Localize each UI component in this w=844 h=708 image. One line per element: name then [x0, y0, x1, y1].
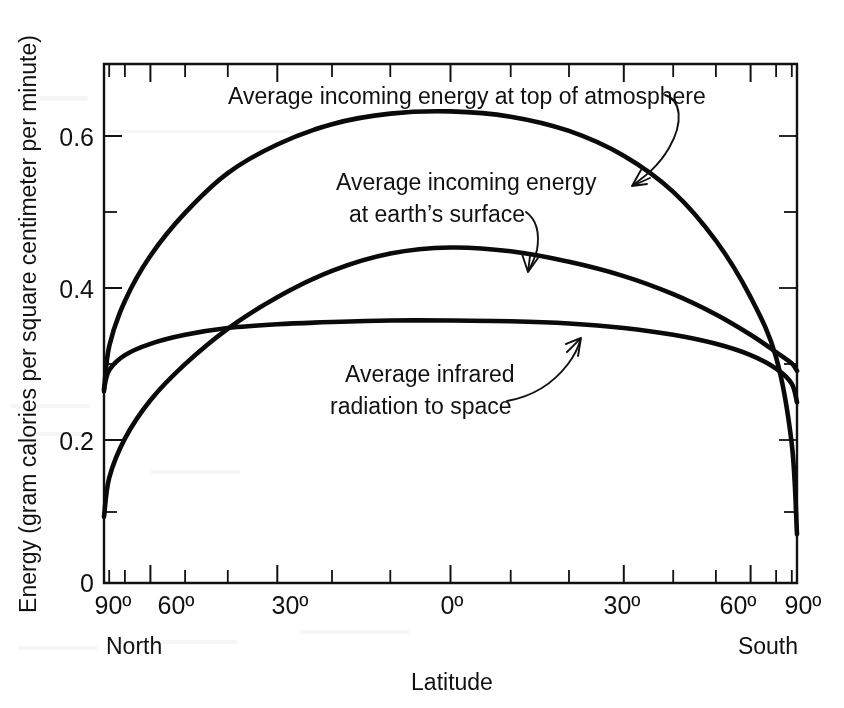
annotation-top-of-atmosphere-line1: Average incoming energy at top of atmosp… [228, 83, 706, 109]
ytick-label-0-6: 0.6 [59, 123, 94, 151]
xtick-label-60-south: 60º [720, 591, 757, 619]
xtick-label-60-north: 60º [158, 591, 195, 619]
ytick-label-0-2: 0.2 [59, 427, 94, 455]
annotation-earths-surface-line1: Average incoming energy [336, 169, 597, 195]
energy-latitude-chart: 0 0.2 0.4 0.6 Energy (gram calories per … [0, 0, 844, 708]
xtick-label-30-north: 30º [272, 591, 309, 619]
annotation-infrared-line1: Average infrared [345, 361, 515, 387]
ytick-label-0-4: 0.4 [59, 275, 94, 303]
figure-container: 0 0.2 0.4 0.6 Energy (gram calories per … [0, 0, 844, 708]
hemisphere-label-north: North [106, 633, 162, 659]
x-axis-title: Latitude [411, 669, 493, 695]
hemisphere-label-south: South [738, 633, 798, 659]
annotation-earths-surface-line2: at earth’s surface [349, 201, 525, 227]
xtick-label-30-south: 30º [604, 591, 641, 619]
xtick-label-0: 0º [440, 591, 463, 619]
ytick-label-0: 0 [80, 569, 94, 597]
xtick-label-90-south: 90º [785, 591, 822, 619]
y-axis-title: Energy (gram calories per square centime… [15, 35, 41, 613]
xtick-label-90-north: 90º [95, 591, 132, 619]
annotation-infrared-line2: radiation to space [330, 393, 512, 419]
